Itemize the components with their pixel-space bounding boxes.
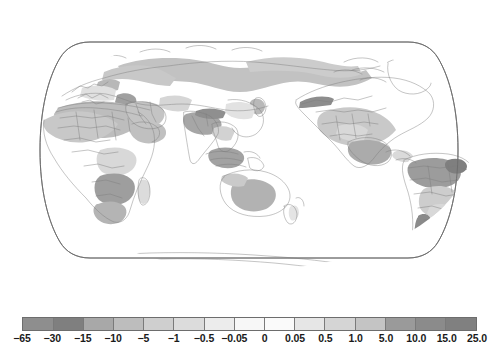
colorbar-separator-12 <box>385 318 386 330</box>
colorbar-segment-12 <box>385 318 415 330</box>
colorbar-tick-8: 0 <box>262 332 268 345</box>
colorbar-segment-14 <box>446 318 476 330</box>
colorbar-segment-2 <box>83 318 113 330</box>
colorbar-separator-7 <box>234 318 235 330</box>
colorbar-tick-7: −0.05 <box>221 332 247 345</box>
colorbar-segment-3 <box>114 318 144 330</box>
colorbar-segment-5 <box>174 318 204 330</box>
colorbar-tick-10: 0.5 <box>318 332 332 345</box>
colorbar-segment-6 <box>204 318 234 330</box>
colorbar-tick-6: −0.5 <box>194 332 214 345</box>
figure-root: −65−30−15−10−5−1−0.5−0.0500.050.51.05.01… <box>0 0 498 351</box>
colorbar-tick-5: −1 <box>168 332 180 345</box>
colorbar-tick-2: −15 <box>74 332 92 345</box>
colorbar-separator-14 <box>445 318 446 330</box>
colorbar-segment-9 <box>295 318 325 330</box>
colorbar-separator-1 <box>53 318 54 330</box>
colorbar-tick-11: 1.0 <box>349 332 363 345</box>
colorbar-segment-13 <box>416 318 446 330</box>
colorbar-segment-8 <box>265 318 295 330</box>
colorbar-tick-12: 5.0 <box>379 332 393 345</box>
colorbar-tick-9: 0.05 <box>285 332 305 345</box>
colorbar-tick-labels: −65−30−15−10−5−1−0.5−0.0500.050.51.05.01… <box>0 332 498 348</box>
colorbar: −65−30−15−10−5−1−0.5−0.0500.050.51.05.01… <box>0 300 498 351</box>
colorbar-segment-1 <box>53 318 83 330</box>
colorbar-gradient[interactable] <box>22 317 477 331</box>
colorbar-separator-11 <box>355 318 356 330</box>
colorbar-separator-2 <box>83 318 84 330</box>
world-map-svg <box>0 0 498 300</box>
colorbar-separator-3 <box>113 318 114 330</box>
world-map <box>0 0 498 300</box>
colorbar-separator-5 <box>173 318 174 330</box>
colorbar-separator-8 <box>264 318 265 330</box>
colorbar-tick-1: −30 <box>44 332 62 345</box>
colorbar-separator-10 <box>324 318 325 330</box>
colorbar-tick-4: −5 <box>137 332 149 345</box>
colorbar-tick-13: 10.0 <box>406 332 426 345</box>
colorbar-segment-7 <box>234 318 264 330</box>
colorbar-separator-13 <box>415 318 416 330</box>
colorbar-separator-9 <box>294 318 295 330</box>
colorbar-tick-15: 25.0 <box>467 332 487 345</box>
colorbar-tick-0: −65 <box>13 332 31 345</box>
colorbar-segment-10 <box>325 318 355 330</box>
colorbar-tick-3: −10 <box>104 332 122 345</box>
colorbar-separator-6 <box>204 318 205 330</box>
colorbar-segment-11 <box>355 318 385 330</box>
colorbar-separator-4 <box>143 318 144 330</box>
colorbar-tick-14: 15.0 <box>437 332 457 345</box>
colorbar-segment-4 <box>144 318 174 330</box>
colorbar-segment-0 <box>23 318 53 330</box>
